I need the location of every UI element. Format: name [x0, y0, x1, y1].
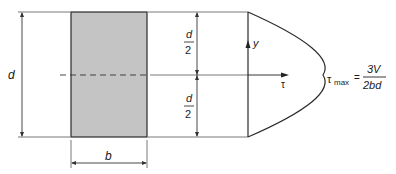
formula-denominator: 2bd	[362, 79, 382, 91]
formula-numerator: 3V	[367, 63, 382, 75]
width-label: b	[105, 149, 112, 163]
upper-half-denominator: 2	[185, 44, 191, 56]
half-depth-arrow-bottom-icon	[195, 132, 199, 137]
tau-axis-label: τ	[281, 79, 285, 90]
half-depth-arrow-top-icon	[195, 12, 199, 17]
width-arrow-left-icon	[71, 161, 76, 165]
y-axis-arrow-icon	[246, 40, 251, 48]
tau-axis-arrow-icon	[281, 73, 289, 78]
depth-arrow-top-icon	[20, 12, 24, 17]
depth-arrow-bottom-icon	[20, 132, 24, 137]
lower-half-denominator: 2	[185, 108, 191, 120]
y-axis-label: y	[252, 37, 260, 49]
upper-half-numerator: d	[186, 28, 193, 40]
formula-tau-symbol: τ	[327, 73, 332, 85]
shear-stress-diagram: d b d 2 d 2 y τ τ max = 3V 2bd	[0, 0, 396, 174]
half-depth-arrow-mid-down-icon	[195, 70, 199, 75]
cross-section-rectangle	[71, 12, 147, 137]
lower-half-numerator: d	[186, 92, 193, 104]
formula-equals: =	[354, 72, 360, 83]
width-arrow-right-icon	[142, 161, 147, 165]
half-depth-arrow-mid-up-icon	[195, 75, 199, 80]
formula-subscript-max: max	[334, 78, 349, 87]
depth-label: d	[8, 68, 15, 82]
